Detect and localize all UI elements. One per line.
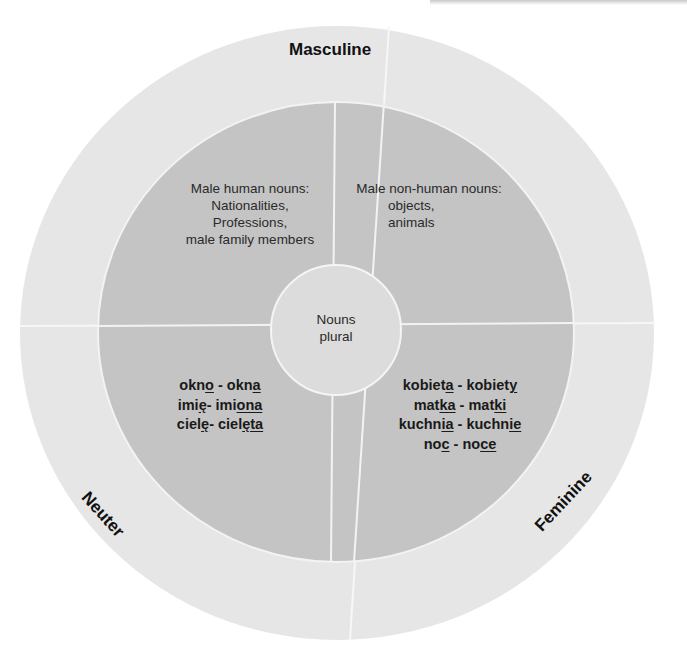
separator: -: [454, 377, 467, 393]
separator: -: [456, 397, 469, 413]
singular-ending: ę: [201, 416, 209, 432]
example-row: imię- imiona: [140, 396, 300, 416]
neuter-examples: okno - okna imię- imiona cielę- cielęta: [140, 376, 300, 435]
singular-ending: o: [205, 377, 214, 393]
singular-ending: ia: [441, 416, 453, 432]
male-human-item: Nationalities,: [160, 197, 340, 214]
separator: -: [454, 416, 467, 432]
example-row: cielę- cielęta: [140, 415, 300, 435]
feminine-examples: kobieta - kobiety matka - matki kuchnia …: [385, 376, 535, 454]
singular-stem: ciel: [177, 416, 201, 432]
separator: -: [209, 416, 218, 432]
separator: -: [214, 377, 227, 393]
singular-stem: mat: [414, 397, 440, 413]
singular-stem: okn: [179, 377, 205, 393]
singular-ending: a: [445, 377, 453, 393]
plural-stem: okn: [227, 377, 253, 393]
male-human-item: male family members: [160, 231, 340, 248]
quadrant-male-human: Male human nouns: Nationalities, Profess…: [160, 180, 340, 248]
center-label: Nouns plural: [286, 311, 386, 345]
example-row: okno - okna: [140, 376, 300, 396]
male-human-item: Professions,: [160, 214, 340, 231]
plural-stem: no: [462, 436, 480, 452]
plural-stem: ciel: [218, 416, 242, 432]
plural-stem: kobiet: [466, 377, 509, 393]
plural-ending: ie: [509, 416, 521, 432]
plural-stem: mat: [468, 397, 494, 413]
separator: -: [207, 397, 216, 413]
plural-ending: a: [253, 377, 261, 393]
plural-stem: kuchn: [466, 416, 509, 432]
plural-ending: ęta: [242, 416, 263, 432]
label-masculine: Masculine: [289, 40, 371, 60]
male-human-heading: Male human nouns:: [160, 180, 340, 197]
singular-ending: ka: [439, 397, 455, 413]
male-non-human-item: animals: [340, 214, 518, 231]
male-non-human-heading: Male non-human nouns:: [340, 180, 518, 197]
example-row: noc - noce: [385, 435, 535, 455]
singular-stem: imi: [178, 397, 199, 413]
singular-ending: ę: [199, 397, 207, 413]
example-row: kuchnia - kuchnie: [385, 415, 535, 435]
plural-stem: imi: [216, 397, 237, 413]
plural-ending: ona: [237, 397, 263, 413]
example-row: matka - matki: [385, 396, 535, 416]
singular-stem: no: [424, 436, 442, 452]
singular-stem: kuchn: [399, 416, 442, 432]
plural-ending: ce: [480, 436, 496, 452]
plural-ending: y: [509, 377, 517, 393]
male-non-human-item: objects,: [340, 197, 518, 214]
quadrant-male-non-human: Male non-human nouns: objects, animals: [340, 180, 518, 231]
example-row: kobieta - kobiety: [385, 376, 535, 396]
separator: -: [450, 436, 463, 452]
plural-ending: ki: [494, 397, 506, 413]
singular-ending: c: [441, 436, 449, 452]
center-label-line1: Nouns: [286, 311, 386, 328]
singular-stem: kobiet: [403, 377, 446, 393]
center-label-line2: plural: [286, 328, 386, 345]
